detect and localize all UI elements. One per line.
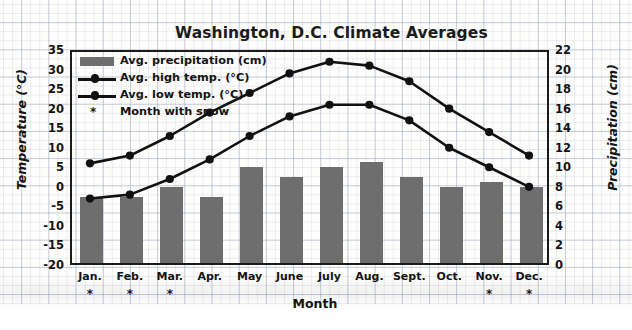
legend-item: Avg. precipitation (cm) xyxy=(76,54,256,69)
legend-item: Avg. low temp. (°C) xyxy=(76,88,256,103)
legend-item: Avg. high temp. (°C) xyxy=(76,71,256,86)
climate-chart-page: Washington, D.C. Climate Averages 353025… xyxy=(0,0,632,330)
temperature-data-point xyxy=(325,101,333,109)
legend-item-label: Month with snow xyxy=(120,105,229,118)
legend-line-marker-icon xyxy=(76,88,118,103)
temperature-data-point xyxy=(126,151,134,159)
temperature-data-point xyxy=(445,144,453,152)
legend-item-label: Avg. precipitation (cm) xyxy=(120,54,267,67)
temperature-data-point xyxy=(405,77,413,85)
legend-item-label: Avg. low temp. (°C) xyxy=(120,88,243,101)
chart-legend: Avg. precipitation (cm)Avg. high temp. (… xyxy=(76,54,256,122)
temperature-data-point xyxy=(246,132,254,140)
temperature-data-point xyxy=(485,163,493,171)
temperature-data-point xyxy=(166,132,174,140)
temperature-data-point xyxy=(365,101,373,109)
temperature-line-series xyxy=(0,0,632,330)
legend-item-label: Avg. high temp. (°C) xyxy=(120,71,249,84)
chart-area: Washington, D.C. Climate Averages 353025… xyxy=(0,0,632,330)
temperature-data-point xyxy=(525,151,533,159)
temperature-data-point xyxy=(206,155,214,163)
temperature-data-point xyxy=(325,58,333,66)
legend-item: *Month with snow xyxy=(76,105,256,120)
legend-asterisk-icon: * xyxy=(76,105,118,120)
temperature-data-point xyxy=(86,159,94,167)
asterisk-icon: * xyxy=(90,105,96,119)
temperature-data-point xyxy=(166,175,174,183)
temperature-data-point xyxy=(405,116,413,124)
temperature-data-point xyxy=(365,62,373,70)
temperature-data-point xyxy=(525,183,533,191)
temperature-data-point xyxy=(285,69,293,77)
bar-swatch-icon xyxy=(80,57,114,66)
temperature-data-point xyxy=(126,191,134,199)
legend-bar-swatch-icon xyxy=(76,54,118,69)
temperature-data-point xyxy=(285,112,293,120)
temperature-data-point xyxy=(445,105,453,113)
legend-line-marker-icon xyxy=(76,71,118,86)
temperature-data-point xyxy=(485,128,493,136)
temperature-data-point xyxy=(86,194,94,202)
dot-marker-icon xyxy=(91,74,99,82)
dot-marker-icon xyxy=(91,91,99,99)
